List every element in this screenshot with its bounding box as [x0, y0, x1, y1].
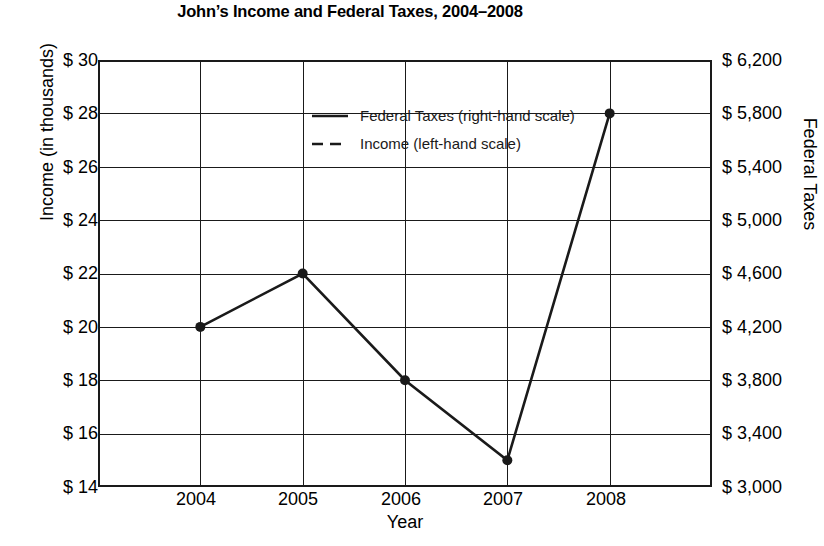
x-axis-tick: 2006 — [346, 489, 456, 510]
y-axis-left-tick: $ 18 — [63, 369, 98, 391]
y-axis-left-tick: $ 30 — [63, 49, 98, 71]
y-axis-left-tick: $ 24 — [63, 209, 98, 231]
y-axis-right-tick: $ 5,000 — [722, 209, 782, 231]
x-axis-tick: 2008 — [551, 489, 661, 510]
y-axis-right-tick: $ 3,800 — [722, 369, 782, 391]
data-point — [502, 455, 512, 465]
y-axis-right-tick: $ 5,800 — [722, 102, 782, 124]
data-point — [298, 269, 308, 279]
y-axis-left-tick: $ 28 — [63, 102, 98, 124]
y-axis-right-tick: $ 3,400 — [722, 422, 782, 444]
y-axis-left-tick: $ 16 — [63, 422, 98, 444]
legend-label-income: Income (left-hand scale) — [360, 135, 521, 152]
y-axis-right-tick: $ 5,400 — [722, 156, 782, 178]
plot-area: Federal Taxes (right-hand scale) Income … — [98, 60, 712, 487]
y-axis-left-tick: $ 26 — [63, 156, 98, 178]
y-axis-right-title: Federal Taxes — [794, 19, 820, 329]
y-axis-left-title: Income (in thousands) — [37, 0, 63, 287]
chart-title: John’s Income and Federal Taxes, 2004–20… — [0, 2, 700, 21]
data-point — [605, 108, 615, 118]
y-axis-left-tick: $ 22 — [63, 262, 98, 284]
data-point — [195, 322, 205, 332]
x-axis-tick: 2004 — [141, 489, 251, 510]
y-axis-right-tick: $ 3,000 — [722, 476, 782, 498]
y-axis-left-tick: $ 14 — [63, 476, 98, 498]
x-axis-title: Year — [98, 512, 712, 533]
data-point — [400, 375, 410, 385]
x-axis-tick: 2007 — [448, 489, 558, 510]
y-axis-left-tick: $ 20 — [63, 316, 98, 338]
x-axis-tick: 2005 — [243, 489, 353, 510]
y-axis-right-tick: $ 4,600 — [722, 262, 782, 284]
y-axis-right-tick: $ 4,200 — [722, 316, 782, 338]
y-axis-right-tick: $ 6,200 — [722, 49, 782, 71]
gridlines — [98, 60, 712, 487]
legend-label-federal-taxes: Federal Taxes (right-hand scale) — [360, 107, 575, 124]
chart-figure: John’s Income and Federal Taxes, 2004–20… — [0, 0, 824, 546]
plot-canvas: Federal Taxes (right-hand scale) Income … — [98, 60, 712, 487]
